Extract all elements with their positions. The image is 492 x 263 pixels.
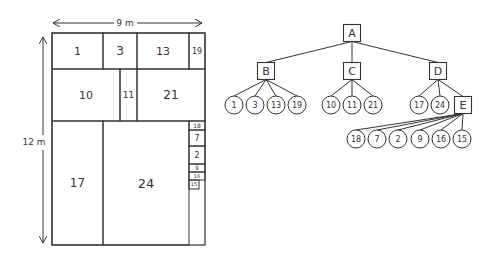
tree-leaf-label: 2: [395, 135, 400, 144]
tree-leaf-label: 15: [457, 135, 467, 144]
tree-edge: [352, 80, 373, 97]
treemap-cell-label: 19: [192, 47, 202, 56]
treemap-cell: 15: [189, 180, 199, 189]
tree-node-e: E: [455, 97, 472, 114]
treemap-cell-label: 17: [70, 176, 85, 190]
treemap-cell: 24: [103, 121, 189, 245]
tree-leaf: 2: [389, 130, 407, 148]
diagram-canvas: 9 m 12 m 1313191011211724187291615 ABCDE…: [0, 0, 492, 263]
tree-leaf-label: 16: [436, 135, 446, 144]
treemap-cell-label: 2: [194, 151, 199, 160]
tree-leaf-label: 10: [326, 101, 336, 110]
tree-leaf-label: 3: [252, 101, 257, 110]
tree-leaf: 7: [368, 130, 386, 148]
tree-edge: [438, 80, 463, 97]
treemap-cell-label: 18: [193, 122, 201, 129]
tree-leaf: 16: [432, 130, 450, 148]
treemap-cell-label: 10: [79, 89, 93, 102]
tree-node-d: D: [430, 63, 447, 80]
tree-edge: [331, 80, 352, 97]
treemap-cell-label: 21: [163, 88, 178, 102]
treemap-cell-label: 9: [195, 164, 199, 171]
treemap-cell: 3: [103, 33, 137, 69]
tree-edge: [234, 80, 266, 97]
tree-node-a: A: [344, 25, 361, 42]
tree-leaf: 21: [364, 96, 382, 114]
tree-leaf: 17: [410, 96, 428, 114]
tree-leaf-label: 19: [292, 101, 302, 110]
treemap-cell: 21: [137, 69, 205, 121]
width-dimension: 9 m: [53, 18, 202, 28]
treemap-cell: 19: [189, 33, 205, 69]
treemap: 1313191011211724187291615: [52, 33, 205, 245]
tree-leaf: 9: [411, 130, 429, 148]
treemap-cell: 9: [189, 164, 205, 172]
tree-node-label: A: [348, 27, 356, 40]
treemap-cell: 17: [52, 121, 103, 245]
tree-leaf: 3: [246, 96, 264, 114]
treemap-cell: 18: [189, 121, 205, 130]
treemap-cell-label: 24: [138, 176, 155, 191]
tree-edge: [266, 42, 352, 63]
tree-edge: [420, 114, 463, 131]
treemap-cell: 11: [120, 69, 137, 121]
tree-node-label: D: [434, 65, 442, 78]
tree-edge: [352, 42, 438, 63]
treemap-cell: 13: [137, 33, 189, 69]
tree-edge: [462, 114, 463, 131]
tree-leaf-label: 17: [414, 101, 424, 110]
treemap-cell: 10: [52, 69, 120, 121]
width-label: 9 m: [116, 18, 133, 28]
tree-leaf: 10: [322, 96, 340, 114]
tree-leaf-label: 1: [231, 101, 236, 110]
tree-edge: [419, 80, 438, 97]
tree-leaf-label: 11: [347, 101, 357, 110]
tree-node-b: B: [258, 63, 275, 80]
treemap-cell-label: 3: [116, 44, 124, 58]
treemap-cell: 16: [189, 172, 205, 180]
tree-leaf: 13: [267, 96, 285, 114]
tree-edge: [438, 80, 440, 97]
tree-leaf-label: 24: [435, 101, 445, 110]
treemap-cell-label: 7: [194, 134, 199, 143]
treemap-cell-label: 13: [156, 45, 170, 58]
height-label: 12 m: [22, 137, 45, 147]
tree-leaf: 24: [431, 96, 449, 114]
tree-leaf: 11: [343, 96, 361, 114]
tree-edge: [377, 114, 463, 131]
treemap-cell-label: 1: [74, 45, 81, 58]
tree-leaf: 15: [453, 130, 471, 148]
treemap-cell-label: 15: [191, 181, 197, 187]
tree-node-label: E: [460, 99, 467, 112]
tree-leaf: 1: [225, 96, 243, 114]
treemap-outline: [52, 33, 205, 245]
treemap-cell-label: 11: [123, 90, 134, 100]
height-dimension: 12 m: [22, 37, 45, 243]
tree-node-label: C: [348, 65, 356, 78]
tree-node-label: B: [262, 65, 270, 78]
tree-leaf-label: 9: [417, 135, 422, 144]
treemap-cell: 1: [52, 33, 103, 69]
treemap-cell: 2: [189, 146, 205, 164]
treemap-cell-label: 16: [194, 173, 200, 179]
tree-leaf-label: 18: [351, 135, 361, 144]
tree-leaf-label: 21: [368, 101, 378, 110]
tree-edges: [234, 42, 463, 131]
tree-leaf-label: 13: [271, 101, 281, 110]
treemap-cell: 7: [189, 130, 205, 146]
tree-node-c: C: [344, 63, 361, 80]
tree-leaf: 19: [288, 96, 306, 114]
tree-leaf-label: 7: [374, 135, 379, 144]
tree-leaf: 18: [347, 130, 365, 148]
